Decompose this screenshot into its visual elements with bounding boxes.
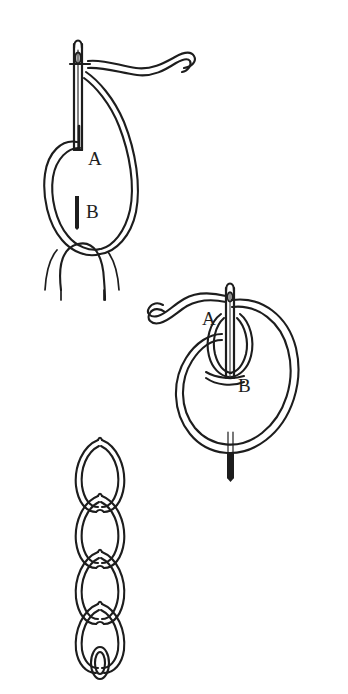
label-a-fig1: A (88, 148, 102, 169)
thumb-outline (60, 243, 105, 300)
chain-link-2-bottom-join (96, 566, 104, 568)
diagram-root: A B (0, 0, 348, 694)
chain-link-1-bottom-join (96, 510, 104, 512)
label-a-fig2: A (202, 308, 216, 329)
needle-point-tip (227, 452, 234, 482)
chain-link-3-bottom-join (96, 622, 104, 624)
label-b-fig2: B (238, 375, 251, 396)
thumb-knuckle-right (108, 252, 119, 290)
needle-head-cap-fig2 (226, 284, 234, 292)
chain-link-4 (76, 602, 125, 673)
figure-3-finished-chain-stitch (76, 438, 125, 679)
figure-1-needle-forming-first-loop: A B (44, 41, 195, 301)
thumb-knuckle-left (45, 250, 57, 290)
figure-2-needle-through-loop: A B (148, 284, 298, 483)
chain-link-2-top-join (98, 494, 102, 496)
tick-mark-b (75, 196, 79, 230)
needle-head-cap (74, 41, 82, 49)
chain-link-1-top-join (98, 438, 102, 440)
end-loop-inner (95, 652, 105, 674)
chain-stitch-diagram-canvas: A B (0, 0, 348, 694)
chain-link-3-top-join (98, 550, 102, 552)
chain-link-1 (76, 438, 125, 512)
inner-loop-left-inner (214, 318, 231, 373)
label-b-fig1: B (86, 201, 99, 222)
chain-link-4-top-join (98, 602, 102, 604)
inner-loop-right-inner (230, 318, 247, 373)
